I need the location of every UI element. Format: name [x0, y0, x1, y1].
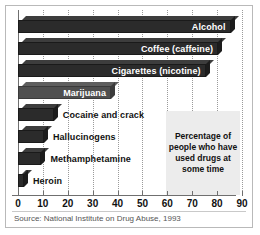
bar-side-face — [206, 60, 210, 77]
bar-label: Cigarettes (nicotine) — [112, 64, 201, 77]
x-tick-label: 40 — [106, 198, 130, 209]
callout-text: Percentage of people who have used drugs… — [168, 131, 238, 175]
tick-mark-80 — [217, 191, 218, 196]
tick-mark-70 — [192, 191, 193, 196]
x-tick-label: 10 — [31, 198, 55, 209]
bar-front-face — [18, 108, 54, 121]
tick-mark-10 — [43, 191, 44, 196]
bar-label: Cocaine and crack — [63, 108, 144, 121]
source-divider — [12, 211, 246, 212]
bar — [18, 126, 48, 143]
source-note: Source: National Institute on Drug Abuse… — [14, 214, 181, 223]
x-tick-label: 60 — [155, 198, 179, 209]
x-axis-line — [12, 195, 236, 196]
bar-label: Hallucinogens — [53, 130, 116, 143]
bar: Marijuana — [18, 82, 115, 99]
tick-mark-90 — [242, 191, 243, 196]
bar: Alcohol — [18, 16, 235, 33]
bar-label: Coffee (caffeine) — [141, 42, 213, 55]
bar-label: Marijuana — [63, 86, 106, 99]
x-tick-label: 70 — [180, 198, 204, 209]
tick-mark-50 — [142, 191, 143, 196]
x-tick-label: 20 — [56, 198, 80, 209]
bar — [18, 148, 45, 165]
callout-box: Percentage of people who have used drugs… — [166, 111, 240, 195]
bar-side-face — [54, 104, 58, 121]
x-tick-label: 50 — [130, 198, 154, 209]
bar-side-face — [218, 38, 222, 55]
bar-side-face — [24, 170, 28, 187]
bar-side-face — [111, 82, 115, 99]
chart-frame: Percentage of people who have used drugs… — [5, 5, 253, 228]
bar-front-face — [18, 174, 24, 187]
bar-label: Methamphetamine — [50, 152, 131, 165]
bar-side-face — [44, 126, 48, 143]
bar-front-face — [18, 130, 44, 143]
bar — [18, 170, 28, 187]
bar-label: Heroin — [33, 174, 62, 187]
bar-side-face — [231, 16, 235, 33]
tick-mark-0 — [18, 191, 19, 196]
bar: Coffee (caffeine) — [18, 38, 222, 55]
tick-mark-20 — [68, 191, 69, 196]
tick-mark-30 — [93, 191, 94, 196]
bar-label: Alcohol — [192, 20, 226, 33]
tick-mark-60 — [167, 191, 168, 196]
x-tick-label: 0 — [6, 198, 30, 209]
x-tick-label: 30 — [81, 198, 105, 209]
plot-area: Percentage of people who have used drugs… — [12, 10, 248, 195]
gridline-90 — [242, 10, 243, 195]
bar-side-face — [41, 148, 45, 165]
chart-figure: Percentage of people who have used drugs… — [0, 0, 260, 235]
bar-front-face — [18, 152, 41, 165]
x-tick-label: 90 — [230, 198, 254, 209]
x-tick-label: 80 — [205, 198, 229, 209]
bar: Cigarettes (nicotine) — [18, 60, 210, 77]
bar — [18, 104, 58, 121]
tick-mark-40 — [118, 191, 119, 196]
